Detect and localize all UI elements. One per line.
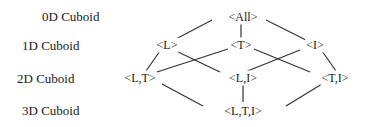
edge-l-lt xyxy=(146,51,160,71)
node-lti: <L,T,I> xyxy=(223,104,262,119)
level-label-0d: 0D Cuboid xyxy=(42,9,99,25)
edge-all-l xyxy=(174,20,212,40)
node-all: <All> xyxy=(228,10,259,25)
level-label-1d: 1D Cuboid xyxy=(22,38,79,54)
node-i: <I> xyxy=(305,38,325,53)
edge-lt-lti xyxy=(162,84,203,106)
edge-i-li xyxy=(245,50,300,72)
node-lt: <L,T> xyxy=(123,71,156,86)
edge-all-i xyxy=(266,20,306,40)
edge-t-ti xyxy=(254,49,310,72)
node-t: <T> xyxy=(230,38,253,53)
edge-ti-lti xyxy=(286,84,322,106)
level-label-3d: 3D Cuboid xyxy=(22,103,79,119)
node-l: <L> xyxy=(156,38,179,53)
level-label-2d: 2D Cuboid xyxy=(17,71,74,87)
node-ti: <T,I> xyxy=(321,71,350,86)
node-li: <L,I> xyxy=(228,71,258,86)
edge-i-ti xyxy=(322,51,336,71)
